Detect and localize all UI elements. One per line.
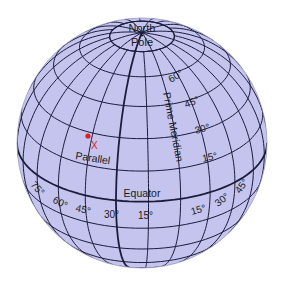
marker-x-label: X [91, 140, 98, 151]
marker-dot [85, 133, 90, 138]
equator-label: Equator [124, 187, 161, 199]
globe-diagram: North Pole Prime Meridian 60° 45° 30° 15… [0, 0, 282, 282]
longitude-label-west-30: 30° [104, 209, 119, 220]
north-pole-text-line1: North [129, 22, 156, 34]
longitude-label-west-15: 15° [138, 210, 153, 221]
north-pole-text-line2: Pole [131, 36, 153, 48]
globe-svg: North Pole Prime Meridian 60° 45° 30° 15… [0, 0, 282, 282]
